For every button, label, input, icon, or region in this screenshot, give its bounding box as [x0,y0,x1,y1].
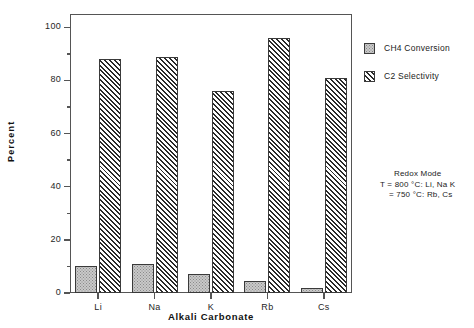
legend: CH4 Conversion C2 Selectivity [364,42,450,98]
y-tick-mark [67,213,71,215]
legend-label: CH4 Conversion [384,43,450,53]
bar-li-c2-selectivity [99,59,121,293]
y-tick-mark [64,239,70,241]
bar-cs-ch4-conversion [301,288,323,293]
y-axis-title: Percent [4,106,18,176]
y-tick-mark [64,186,70,188]
bar-na-ch4-conversion [132,264,154,293]
legend-item-c2-selectivity: C2 Selectivity [364,70,450,82]
y-tick-label: 60 [50,128,61,138]
y-tick-label: 0 [56,287,61,297]
y-tick-mark [64,292,70,294]
bars-layer [70,14,352,293]
legend-label: C2 Selectivity [384,71,439,81]
bar-rb-ch4-conversion [244,281,266,293]
legend-item-ch4-conversion: CH4 Conversion [364,42,450,54]
bar-na-c2-selectivity [156,57,178,293]
x-tick-mark [154,293,156,299]
y-tick-label: 80 [50,74,61,84]
y-tick-mark [67,53,71,55]
y-tick-mark [67,266,71,268]
y-tick-mark [64,80,70,82]
annotation-block: Redox Mode T = 800 °C: Li, Na K = 750 °C… [380,169,455,201]
y-tick-label: 100 [45,21,61,31]
y-tick-label: 20 [50,234,61,244]
x-tick-mark [97,293,99,299]
y-tick-mark [67,106,71,108]
x-axis-title: Alkali Carbonate [70,311,352,322]
bar-cs-c2-selectivity [325,78,347,293]
y-tick-mark [67,159,71,161]
y-tick-mark [64,27,70,29]
annotation-line-redox-mode: Redox Mode [380,169,455,180]
chart-figure: 020406080100 Percent LiNaKRbCs Alkali Ca… [0,0,474,328]
dotted-gray-swatch-icon [364,43,375,54]
bar-k-c2-selectivity [212,91,234,293]
x-tick-mark [210,293,212,299]
bar-k-ch4-conversion [188,274,210,293]
annotation-line-temp-low: = 750 °C: Rb, Cs [380,190,455,201]
y-tick-mark [64,133,70,135]
y-tick-label: 40 [50,181,61,191]
bar-rb-c2-selectivity [268,38,290,293]
x-tick-mark [267,293,269,299]
annotation-line-temp-high: T = 800 °C: Li, Na K [380,180,455,191]
diagonal-hatch-swatch-icon [364,71,375,82]
x-tick-mark [323,293,325,299]
bar-li-ch4-conversion [75,266,97,293]
